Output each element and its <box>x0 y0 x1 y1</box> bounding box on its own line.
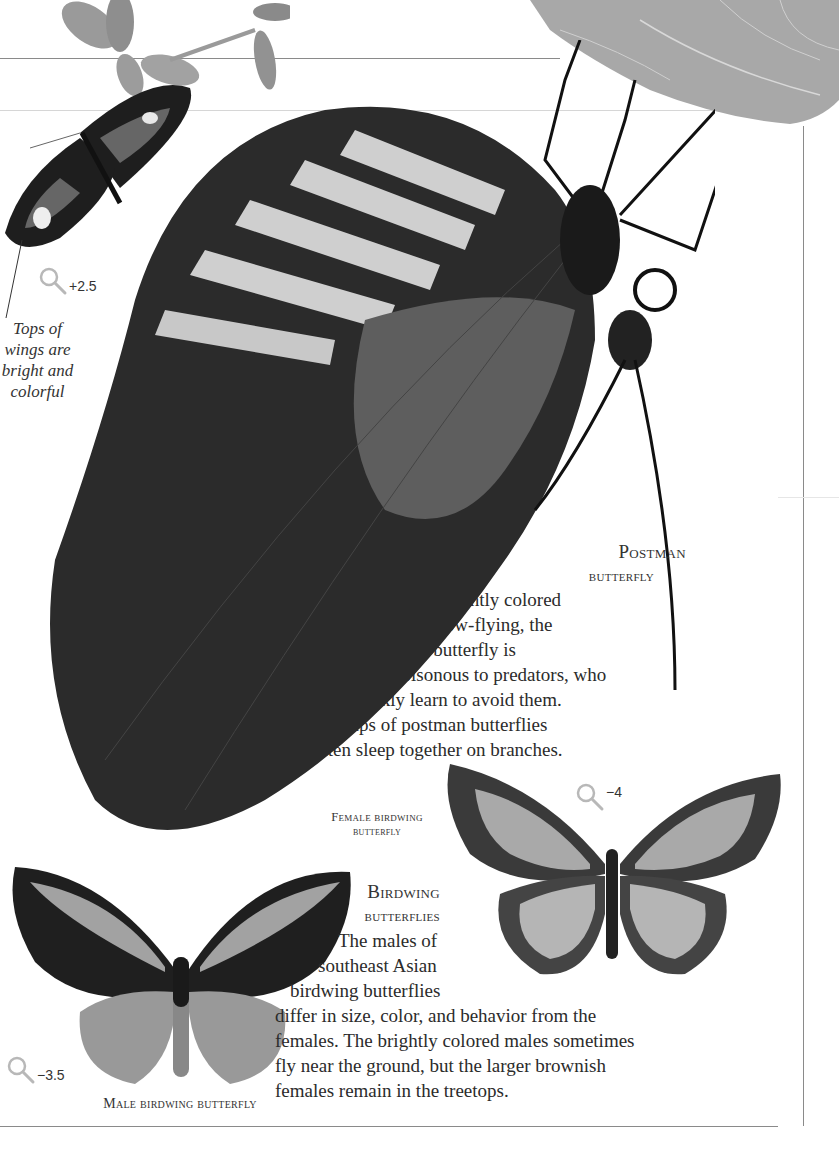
magnifier-icon <box>6 1055 36 1085</box>
birdwing-heading: Birdwing butterflies <box>330 880 440 928</box>
annotation-leader-line <box>0 240 30 320</box>
birdwing-body: The males of southeast Asian birdwing bu… <box>290 928 790 1103</box>
bottom-rule <box>0 1126 778 1127</box>
right-column-rule <box>803 126 804 1126</box>
magnifier-icon <box>575 782 605 812</box>
right-faint-rule <box>778 497 839 498</box>
scale-value: −3.5 <box>37 1067 65 1083</box>
scale-badge-male-birdwing: −3.5 <box>6 1055 65 1085</box>
postman-heading: Postman butterfly <box>400 540 686 588</box>
scale-value: −4 <box>606 784 622 800</box>
male-birdwing-caption: Male birdwing butterfly <box>80 1097 280 1111</box>
female-birdwing-caption: Female birdwing butterfly <box>302 810 452 838</box>
postman-body: Brightly colored and slow-flying, the po… <box>360 587 686 762</box>
scale-badge-female-birdwing: −4 <box>575 782 622 812</box>
